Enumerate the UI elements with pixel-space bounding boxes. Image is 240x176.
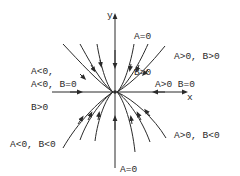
x-axis-label: x: [187, 92, 193, 103]
phase-portrait-diagram: y x A=0 B>0 A<0, B>0 A>0, B>0 A<0, B=0 A…: [0, 0, 240, 176]
label-a-zero-b-neg: A=0 B<0: [120, 142, 143, 176]
origin-node: [113, 90, 117, 94]
label-a-neg-b-zero: A<0, B=0: [31, 79, 77, 90]
label-a-pos-b-zero: A>0 B=0: [155, 79, 195, 90]
trajectory-upper-right-1: [117, 44, 134, 92]
label-a-pos-b-neg: A>0, B<0: [174, 130, 220, 141]
label-a-pos-b-pos: A>0, B>0: [174, 51, 220, 62]
label-a-zero-b-pos: A=0 B>0: [134, 9, 157, 100]
label-a-neg-b-neg: A<0, B<0: [10, 139, 56, 150]
arrow-ur-1: [130, 64, 131, 69]
arrow-ul-1: [80, 74, 84, 78]
y-axis-label: y: [107, 10, 113, 21]
arrow-lr-1: [131, 118, 132, 124]
arrow-ll-3: [98, 114, 99, 120]
